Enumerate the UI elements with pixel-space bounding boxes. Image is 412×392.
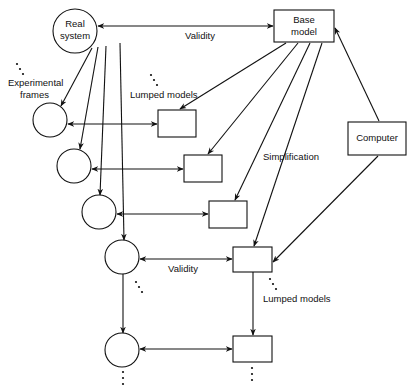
ellipsis-frames-top [16, 63, 24, 75]
base-model-node: Base model [274, 10, 334, 42]
base-model-label-line-2: model [291, 26, 317, 37]
experimental-frame-5 [105, 333, 139, 367]
experimental-frame-2 [57, 149, 91, 183]
lumped-models-label-top: Lumped models [130, 89, 198, 100]
real-system-label-line-1: Real [65, 18, 85, 29]
lumped-model-3 [209, 201, 247, 228]
validity-label-top: Validity [185, 30, 215, 41]
ellipsis-lumped-5 [251, 367, 253, 381]
edges [61, 26, 379, 349]
experimental-frame-3 [82, 195, 116, 229]
edge-base-to-lumped-3 [235, 43, 310, 200]
lumped-models-label-bottom: Lumped models [263, 293, 331, 304]
edge-base-to-lumped-4 [254, 43, 322, 246]
lumped-model-4 [233, 247, 272, 272]
base-model-label-line-1: Base [293, 14, 315, 25]
edge-real-to-frame-2 [80, 47, 98, 149]
nodes: Real system Base model Computer [33, 9, 406, 367]
ellipsis-frame-5 [122, 371, 124, 385]
experimental-frame-1 [33, 103, 67, 137]
lumped-model-1 [158, 110, 196, 137]
computer-node: Computer [348, 122, 406, 155]
edge-real-to-frame-4 [120, 43, 124, 240]
validity-label-bottom: Validity [168, 263, 198, 274]
real-system-node: Real system [53, 9, 97, 53]
simplification-label: Simplification [263, 151, 319, 162]
ellipsis-lumped-4 [269, 278, 277, 290]
real-system-label-line-2: system [60, 30, 90, 41]
diagram-canvas: Real system Base model Computer Validity… [0, 0, 412, 392]
ellipsis-frame-4 [135, 281, 143, 293]
experimental-frame-4 [105, 240, 139, 274]
lumped-model-2 [184, 155, 222, 182]
labels: Validity Experimental frames Lumped mode… [8, 30, 331, 304]
computer-label: Computer [356, 132, 398, 143]
edge-real-to-frame-1 [61, 48, 92, 106]
lumped-model-5 [233, 336, 272, 362]
experimental-frames-label-line-1: Experimental [8, 77, 63, 88]
edge-base-to-lumped-2 [208, 43, 298, 154]
experimental-frames-label-line-2: frames [20, 89, 49, 100]
edge-computer-to-lumped-4 [273, 156, 378, 262]
ellipsis-lumped-top [150, 74, 158, 86]
edge-computer-to-base [335, 28, 379, 121]
edge-real-to-frame-3 [100, 46, 106, 195]
